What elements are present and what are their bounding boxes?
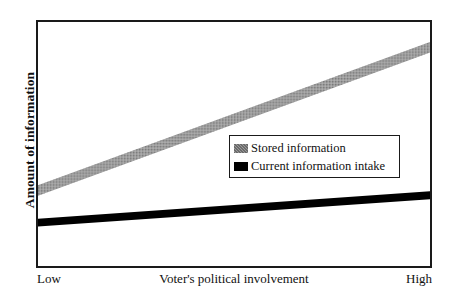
gray-dither-swatch-icon <box>234 144 248 153</box>
series-line-intake <box>38 195 430 223</box>
chart-figure: Amount of information Stored information <box>0 0 450 306</box>
chart-legend: Stored information Current information i… <box>229 135 400 178</box>
black-swatch-icon <box>234 162 248 171</box>
x-axis-tick-high: High <box>397 271 432 287</box>
legend-item-stored: Stored information <box>234 139 394 157</box>
plot-area: Stored information Current information i… <box>36 20 432 268</box>
legend-item-intake-label: Current information intake <box>251 157 385 175</box>
legend-item-stored-label: Stored information <box>251 139 346 157</box>
x-axis-title: Voter's political involvement <box>36 271 432 287</box>
legend-item-intake: Current information intake <box>234 157 394 175</box>
